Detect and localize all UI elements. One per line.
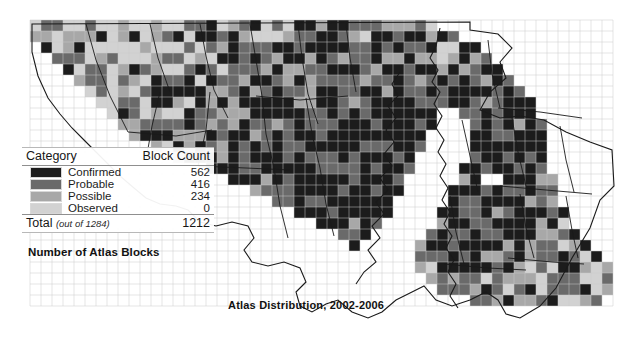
legend-panel: Category Block Count Confirmed 562 Proba… bbox=[22, 147, 214, 233]
legend-header-row: Category Block Count bbox=[22, 148, 214, 166]
legend-label-confirmed: Confirmed bbox=[64, 166, 131, 179]
legend-row-confirmed: Confirmed 562 bbox=[22, 166, 214, 179]
swatch-cell-possible bbox=[22, 190, 64, 202]
legend-label-probable: Probable bbox=[64, 178, 131, 190]
legend-header-category: Category bbox=[22, 148, 131, 166]
legend-total-count: 1212 bbox=[131, 215, 214, 233]
legend-label-observed: Observed bbox=[64, 202, 131, 215]
color-swatch-observed bbox=[30, 203, 62, 214]
legend-table: Category Block Count Confirmed 562 Proba… bbox=[22, 147, 214, 233]
legend-row-probable: Probable 416 bbox=[22, 178, 214, 190]
legend-total-label: Total (out of 1284) bbox=[22, 215, 131, 233]
legend-row-observed: Observed 0 bbox=[22, 202, 214, 215]
swatch-cell-observed bbox=[22, 202, 64, 215]
legend-caption: Number of Atlas Blocks bbox=[28, 246, 160, 258]
color-swatch-probable bbox=[30, 179, 62, 190]
legend-count-confirmed: 562 bbox=[131, 166, 214, 179]
legend-total-row: Total (out of 1284) 1212 bbox=[22, 215, 214, 233]
legend-label-possible: Possible bbox=[64, 190, 131, 202]
map-title: Atlas Distribution, 2002-2006 bbox=[228, 299, 384, 311]
swatch-cell-probable bbox=[22, 178, 64, 190]
color-swatch-confirmed bbox=[30, 167, 62, 178]
legend-count-possible: 234 bbox=[131, 190, 214, 202]
swatch-cell-confirmed bbox=[22, 166, 64, 179]
legend-row-possible: Possible 234 bbox=[22, 190, 214, 202]
color-swatch-possible bbox=[30, 191, 62, 202]
legend-count-probable: 416 bbox=[131, 178, 214, 190]
legend-total-sublabel: (out of 1284) bbox=[56, 218, 110, 229]
legend-header-block-count: Block Count bbox=[131, 148, 214, 166]
atlas-distribution-map-figure: Category Block Count Confirmed 562 Proba… bbox=[0, 0, 638, 350]
legend-count-observed: 0 bbox=[131, 202, 214, 215]
legend-total-word: Total bbox=[26, 216, 52, 230]
